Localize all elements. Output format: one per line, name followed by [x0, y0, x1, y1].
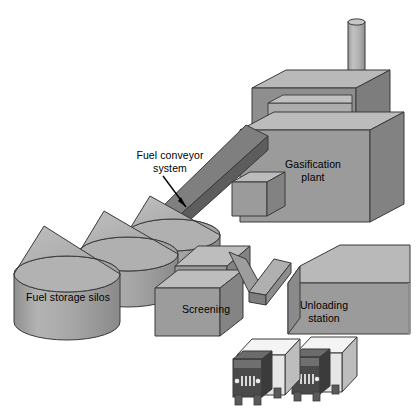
label-fuel-storage-silos: Fuel storage silos: [6, 291, 130, 304]
plant-diagram: Fuel conveyor system Gasification plant …: [0, 0, 418, 420]
label-gasification-plant: Gasification plant: [270, 158, 356, 183]
label-screening: Screening: [163, 303, 249, 316]
label-fuel-conveyor-system: Fuel conveyor system: [122, 149, 218, 174]
truck[interactable]: [233, 339, 300, 405]
diagram-canvas: [0, 0, 418, 420]
truck[interactable]: [292, 337, 357, 401]
label-unloading-station: Unloading station: [281, 299, 367, 324]
gasification-plant[interactable]: [232, 19, 404, 222]
